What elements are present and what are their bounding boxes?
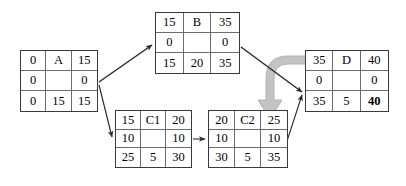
node-d-total-float: 0 (361, 71, 388, 91)
node-c2-early-start: 20 (209, 111, 235, 130)
node-a-middle-blank (46, 71, 71, 91)
node-c1-early-finish: 20 (166, 111, 191, 130)
node-b-duration: 20 (184, 53, 212, 73)
node-a-late-start: 0 (21, 91, 46, 111)
node-d-middle-blank (333, 71, 360, 91)
node-a-duration: 15 (46, 91, 71, 111)
node-b-late-finish: 35 (211, 53, 239, 73)
node-d[interactable]: 35 D 40 0 0 35 5 40 (305, 50, 389, 112)
node-c2-middle-blank (235, 130, 261, 149)
node-c2[interactable]: 20 C2 25 10 10 30 5 35 (208, 110, 288, 168)
edge-a-to-b (99, 45, 152, 82)
node-a-total-float: 0 (72, 71, 97, 91)
node-c1-middle-blank (141, 130, 166, 149)
node-d-activity-name: D (333, 51, 360, 71)
node-b-free-float: 0 (156, 33, 184, 53)
node-a-early-finish: 15 (72, 51, 97, 71)
node-b-early-finish: 35 (211, 13, 239, 33)
node-d-late-start: 35 (306, 91, 333, 111)
node-c2-late-finish: 35 (261, 148, 287, 167)
node-b-activity-name: B (184, 13, 212, 33)
node-c1-duration: 5 (141, 148, 166, 167)
node-b-total-float: 0 (211, 33, 239, 53)
node-b[interactable]: 15 B 35 0 0 15 20 35 (155, 12, 240, 74)
callout-arrow-icon (258, 50, 309, 119)
node-a[interactable]: 0 A 15 0 0 0 15 15 (20, 50, 98, 112)
node-d-free-float: 0 (306, 71, 333, 91)
node-c2-duration: 5 (235, 148, 261, 167)
node-d-early-finish: 40 (361, 51, 388, 71)
node-d-early-start: 35 (306, 51, 333, 71)
node-c2-total-float: 10 (261, 130, 287, 149)
node-c2-free-float: 10 (209, 130, 235, 149)
node-a-early-start: 0 (21, 51, 46, 71)
node-c1-late-start: 25 (116, 148, 141, 167)
node-b-late-start: 15 (156, 53, 184, 73)
node-c1-late-finish: 30 (166, 148, 191, 167)
node-a-late-finish: 15 (72, 91, 97, 111)
node-c1-free-float: 10 (116, 130, 141, 149)
node-b-middle-blank (184, 33, 212, 53)
node-d-duration: 5 (333, 91, 360, 111)
node-c1[interactable]: 15 C1 20 10 10 25 5 30 (115, 110, 192, 168)
node-c2-late-start: 30 (209, 148, 235, 167)
node-c1-early-start: 15 (116, 111, 141, 130)
node-c2-activity-name: C2 (235, 111, 261, 130)
node-d-late-finish: 40 (361, 91, 388, 111)
edge-c2-to-d (287, 95, 302, 141)
node-c2-early-finish: 25 (261, 111, 287, 130)
node-a-free-float: 0 (21, 71, 46, 91)
node-b-early-start: 15 (156, 13, 184, 33)
edge-a-to-c1 (99, 85, 112, 137)
node-c1-activity-name: C1 (141, 111, 166, 130)
node-a-activity-name: A (46, 51, 71, 71)
network-diagram: 0 A 15 0 0 0 15 15 15 B 35 0 0 15 20 35 … (0, 0, 406, 186)
node-c1-total-float: 10 (166, 130, 191, 149)
